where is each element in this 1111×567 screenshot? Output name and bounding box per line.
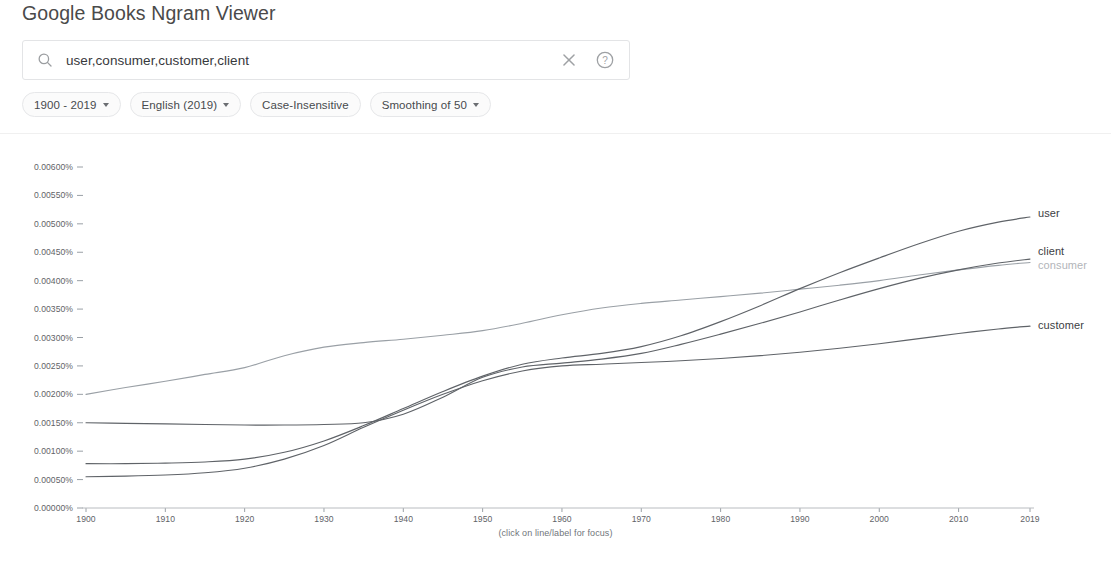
y-tick-label: 0.00200% — [34, 389, 73, 399]
series-line[interactable] — [86, 217, 1030, 464]
y-tick-label: 0.00500% — [34, 219, 73, 229]
y-tick-label: 0.00400% — [34, 276, 73, 286]
search-bar[interactable]: ? — [22, 40, 630, 80]
x-tick-label: 1920 — [235, 514, 254, 524]
series-line[interactable] — [86, 326, 1030, 477]
y-tick-label: 0.00150% — [34, 418, 73, 428]
ngram-chart[interactable]: 0.00000%0.00050%0.00100%0.00150%0.00200%… — [0, 140, 1111, 550]
chart-svg[interactable]: 0.00000%0.00050%0.00100%0.00150%0.00200%… — [0, 140, 1111, 550]
y-tick-label: 0.00350% — [34, 304, 73, 314]
chip-label: Smoothing of 50 — [382, 99, 467, 111]
x-tick-label: 2019 — [1020, 514, 1039, 524]
y-axis-labels: 0.00000%0.00050%0.00100%0.00150%0.00200%… — [34, 162, 83, 513]
x-tick-label: 1970 — [632, 514, 651, 524]
series-line[interactable] — [86, 262, 1030, 394]
x-tick-label: 1980 — [711, 514, 730, 524]
series-label-customer[interactable]: customer — [1038, 319, 1084, 331]
svg-text:?: ? — [602, 55, 608, 66]
y-tick-label: 0.00600% — [34, 162, 73, 172]
search-icon — [36, 51, 54, 69]
y-tick-label: 0.00050% — [34, 475, 73, 485]
y-tick-label: 0.00550% — [34, 190, 73, 200]
x-tick-label: 1910 — [156, 514, 175, 524]
series-lines[interactable] — [86, 217, 1030, 477]
smoothing-chip[interactable]: Smoothing of 50 — [370, 92, 491, 117]
x-tick-label: 1990 — [790, 514, 809, 524]
y-tick-label: 0.00250% — [34, 361, 73, 371]
page-title: Google Books Ngram Viewer — [22, 2, 276, 25]
series-labels[interactable]: consumerclientusercustomer — [1038, 207, 1087, 331]
x-tick-label: 1960 — [552, 514, 571, 524]
x-tick-label: 2010 — [949, 514, 968, 524]
series-label-client[interactable]: client — [1038, 245, 1064, 257]
corpus-chip[interactable]: English (2019) — [130, 92, 242, 117]
x-tick-label: 1900 — [76, 514, 95, 524]
close-icon[interactable] — [558, 49, 580, 71]
controls-divider — [0, 133, 1111, 134]
y-tick-label: 0.00000% — [34, 503, 73, 513]
chart-caption: (click on line/label for focus) — [0, 528, 1111, 538]
x-tick-label: 1930 — [314, 514, 333, 524]
y-tick-label: 0.00100% — [34, 446, 73, 456]
y-tick-label: 0.00300% — [34, 333, 73, 343]
chevron-down-icon — [223, 103, 229, 107]
chip-label: English (2019) — [142, 99, 218, 111]
search-input[interactable] — [66, 53, 558, 68]
case-insensitive-chip[interactable]: Case-Insensitive — [250, 92, 361, 117]
series-label-user[interactable]: user — [1038, 207, 1060, 219]
chevron-down-icon — [473, 103, 479, 107]
chip-label: Case-Insensitive — [262, 99, 349, 111]
filter-chip-row: 1900 - 2019English (2019)Case-Insensitiv… — [22, 92, 491, 117]
chip-label: 1900 - 2019 — [34, 99, 97, 111]
x-tick-label: 2000 — [870, 514, 889, 524]
chevron-down-icon — [103, 103, 109, 107]
x-tick-label: 1950 — [473, 514, 492, 524]
year-range-chip[interactable]: 1900 - 2019 — [22, 92, 121, 117]
x-tick-label: 1940 — [394, 514, 413, 524]
x-axis-labels: 1900191019201930194019501960197019801990… — [76, 508, 1039, 524]
y-tick-label: 0.00450% — [34, 247, 73, 257]
series-label-consumer[interactable]: consumer — [1038, 259, 1087, 271]
help-circle-icon[interactable]: ? — [594, 49, 616, 71]
